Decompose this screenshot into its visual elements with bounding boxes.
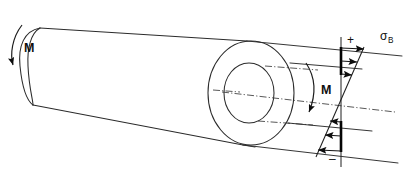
sign-negative-label: – [329, 152, 336, 166]
centerlines-group [213, 66, 395, 125]
stress-symbol-group: σ B [380, 29, 394, 45]
projection-lines-group [243, 41, 402, 163]
stress-arrow-compression-3 [318, 150, 341, 151]
stress-subscript-label: B [388, 36, 394, 45]
moment-arrow-left-arc [12, 25, 22, 65]
moment-arrow-right-group: M [306, 63, 331, 112]
shaft-left-cap-highlight [28, 28, 40, 105]
shaft-top-edge [40, 28, 247, 41]
projection-line-upper-inner [290, 63, 362, 69]
stress-symbol-label: σ [380, 29, 388, 43]
projection-line-top [247, 41, 402, 56]
shaft-end-face-annulus [208, 41, 294, 145]
stress-arrow-tension-2 [341, 61, 357, 62]
moment-label-left: M [24, 41, 34, 55]
sign-positive-label: + [347, 33, 354, 47]
stress-arrow-compression-2 [325, 135, 341, 136]
neutral-axis-centerline [222, 92, 395, 112]
moment-arrow-right-arc [306, 63, 314, 112]
stress-arrow-tension-3 [341, 74, 352, 75]
bore-centerline-stub [213, 90, 240, 92]
bending-stress-linear-profile: + – σ B [316, 29, 394, 167]
bending-stress-diagram: M M + – [0, 0, 415, 171]
outer-diameter-circle [208, 41, 294, 145]
figure-canvas: M M + – [0, 0, 415, 171]
shaft-left-end-cap [20, 28, 40, 105]
moment-label-right: M [321, 83, 331, 97]
shaft-bottom-edge [33, 105, 243, 145]
stress-arrow-tension-1 [341, 48, 364, 49]
